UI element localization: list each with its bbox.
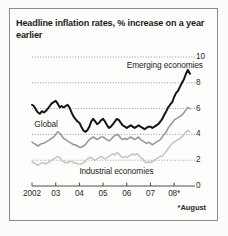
y-tick-label: 8 <box>196 78 214 87</box>
y-tick-label: 0 <box>196 181 214 190</box>
series-label: Emerging economies <box>127 60 203 70</box>
x-axis <box>32 183 195 187</box>
chart-footnote: *August <box>150 203 206 212</box>
x-tick-label: 08* <box>160 189 188 198</box>
series-label: Industrial economies <box>79 166 153 176</box>
series-label: Global <box>34 119 57 129</box>
y-tick-label: 4 <box>196 129 214 138</box>
y-tick-label: 6 <box>196 104 214 113</box>
data-series-group <box>32 70 190 165</box>
y-tick-label: 2 <box>196 155 214 164</box>
chart-figure: Headline inflation rates, % increase on … <box>0 0 228 236</box>
